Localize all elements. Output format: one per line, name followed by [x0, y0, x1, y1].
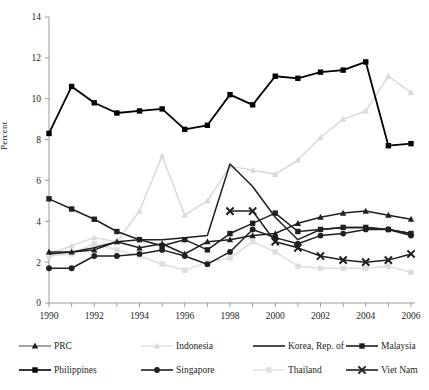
series-philippines [46, 59, 413, 148]
legend-item-philippines[interactable]: Philippines [18, 358, 97, 382]
marker-square [227, 92, 232, 97]
marker-square [295, 76, 300, 81]
marker-circle [250, 227, 256, 233]
plot-area: Percent 02468101214199019921994199619982… [0, 0, 429, 330]
legend-symbol-square-icon [18, 363, 52, 377]
marker-circle [91, 253, 97, 259]
marker-circle [154, 367, 160, 373]
marker-circle [114, 253, 120, 259]
marker-square [273, 249, 278, 254]
marker-square [227, 255, 232, 260]
marker-circle [204, 261, 210, 267]
legend-symbol-square-icon [345, 339, 379, 353]
marker-square [205, 123, 210, 128]
marker-square [408, 141, 413, 146]
series-malaysia [46, 196, 413, 252]
marker-square [273, 74, 278, 79]
marker-square [340, 67, 345, 72]
y-axis-label: Percent [0, 122, 9, 150]
x-tick-label: 2006 [402, 311, 421, 321]
marker-square [114, 247, 119, 252]
marker-square [273, 210, 278, 215]
line-chart-svg: 0246810121419901992199419961998200020022… [0, 0, 429, 330]
marker-square [363, 59, 368, 64]
legend-item-singapore[interactable]: Singapore [140, 358, 215, 382]
marker-circle [46, 265, 52, 271]
marker-triangle [136, 208, 142, 214]
marker-square [250, 239, 255, 244]
legend-item-indonesia[interactable]: Indonesia [140, 334, 213, 358]
marker-square [46, 131, 51, 136]
chart-figure: Percent 02468101214199019921994199619982… [0, 0, 429, 390]
x-tick-label: 2004 [356, 311, 375, 321]
marker-square [69, 84, 74, 89]
marker-square [408, 231, 413, 236]
marker-triangle [385, 73, 391, 79]
marker-circle [227, 249, 233, 255]
legend-symbol-circle-icon [140, 363, 174, 377]
marker-circle [137, 251, 143, 257]
marker-square [250, 221, 255, 226]
marker-square [295, 264, 300, 269]
series-thailand [46, 239, 413, 275]
legend-item-label: Malaysia [381, 339, 416, 353]
marker-circle [182, 253, 188, 259]
marker-circle [69, 265, 75, 271]
legend-item-label: Thailand [288, 363, 322, 377]
legend-item-malaysia[interactable]: Malaysia [345, 334, 416, 358]
legend-symbol-x-icon [345, 363, 379, 377]
marker-square [32, 367, 37, 372]
x-tick-label: 1996 [175, 311, 194, 321]
legend-symbol-triangle-icon [140, 339, 174, 353]
legend-symbol-none-icon [252, 339, 286, 353]
legend-item-label: Singapore [176, 363, 215, 377]
marker-square [182, 268, 187, 273]
legend-item-prc[interactable]: PRC [18, 334, 72, 358]
x-tick-label: 1998 [221, 311, 240, 321]
marker-square [386, 264, 391, 269]
marker-square [114, 229, 119, 234]
marker-square [266, 367, 271, 372]
y-tick-label: 6 [36, 176, 41, 186]
legend-item-viet-nam[interactable]: Viet Nam [345, 358, 418, 382]
marker-square [114, 110, 119, 115]
chart-legend: PRCIndonesiaKorea, Rep. ofMalaysiaPhilip… [0, 332, 429, 390]
legend-symbol-square-icon [252, 363, 286, 377]
marker-square [386, 143, 391, 148]
legend-item-label: Indonesia [176, 339, 213, 353]
marker-square [295, 229, 300, 234]
x-tick-label: 1990 [40, 311, 59, 321]
marker-square [159, 106, 164, 111]
marker-square [318, 227, 323, 232]
marker-triangle [159, 153, 165, 159]
marker-square [46, 196, 51, 201]
y-tick-label: 8 [36, 135, 41, 145]
marker-square [363, 266, 368, 271]
marker-square [92, 217, 97, 222]
marker-square [92, 100, 97, 105]
marker-square [318, 266, 323, 271]
marker-square [386, 227, 391, 232]
marker-square [92, 241, 97, 246]
marker-square [69, 206, 74, 211]
legend-item-label: Philippines [54, 363, 97, 377]
marker-square [159, 243, 164, 248]
marker-circle [318, 233, 324, 239]
marker-square [205, 247, 210, 252]
marker-square [159, 261, 164, 266]
x-tick-label: 2000 [266, 311, 285, 321]
legend-item-korea-rep-of[interactable]: Korea, Rep. of [252, 334, 344, 358]
x-tick-label: 1994 [130, 311, 149, 321]
legend-item-thailand[interactable]: Thailand [252, 358, 322, 382]
marker-square [250, 102, 255, 107]
marker-square [363, 225, 368, 230]
legend-item-label: PRC [54, 339, 72, 353]
legend-item-label: Viet Nam [381, 363, 418, 377]
marker-square [318, 69, 323, 74]
marker-square [340, 266, 345, 271]
y-tick-label: 12 [32, 53, 42, 63]
marker-triangle [182, 212, 188, 218]
y-tick-label: 2 [36, 258, 41, 268]
marker-square [137, 108, 142, 113]
marker-square [340, 225, 345, 230]
